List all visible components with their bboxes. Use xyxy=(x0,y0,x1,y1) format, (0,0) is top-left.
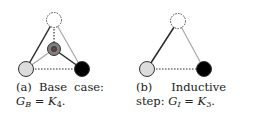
caption-a-word-2: case: xyxy=(74,80,104,94)
node-a-top xyxy=(47,13,62,28)
caption-a-equation: GB = K4. xyxy=(16,94,104,108)
node-a-center-dot xyxy=(53,48,56,51)
node-b-left xyxy=(140,62,155,77)
edge-b-top-right xyxy=(178,21,204,69)
caption-b-equation: step: GI = K3. xyxy=(136,94,226,108)
caption-a-end: . xyxy=(62,94,66,108)
node-b-right xyxy=(197,62,212,77)
caption-a: (a) Base case: GB = K4. xyxy=(16,80,104,108)
figure-b xyxy=(140,14,212,77)
caption-a-graph-symbol: G xyxy=(16,94,25,108)
figure-a xyxy=(19,13,90,77)
edge-b-top-left xyxy=(147,21,178,69)
caption-a-word-1: Base xyxy=(39,80,67,94)
caption-b-prefix: step: xyxy=(136,94,168,108)
node-b-top xyxy=(171,14,186,29)
caption-b-eq: = xyxy=(181,94,198,108)
node-a-right xyxy=(75,62,90,77)
caption-a-label: (a) xyxy=(16,80,32,94)
caption-b-word-1: Inductive xyxy=(171,80,226,94)
caption-b-label: (b) xyxy=(136,80,152,94)
node-a-left xyxy=(19,62,34,77)
caption-b-end: . xyxy=(211,94,215,108)
caption-b: (b) Inductive step: GI = K3. xyxy=(136,80,226,108)
caption-a-eq: = xyxy=(31,94,48,108)
caption-a-rhs-symbol: K xyxy=(48,94,57,108)
caption-b-rhs-symbol: K xyxy=(198,94,207,108)
